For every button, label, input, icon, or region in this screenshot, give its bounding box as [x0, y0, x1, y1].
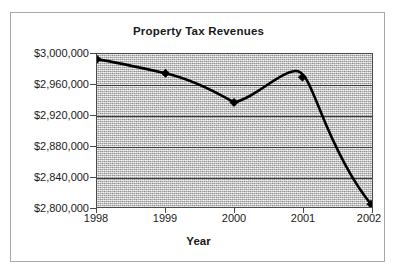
- chart-title: Property Tax Revenues: [11, 25, 386, 37]
- y-tick-label: $2,840,000: [5, 171, 89, 183]
- y-tick-label: $2,800,000: [5, 202, 89, 214]
- chart-figure: Property Tax Revenues $3,000,000 $2,960,…: [10, 12, 385, 262]
- y-tick-label: $2,960,000: [5, 78, 89, 90]
- data-series-line: [97, 54, 372, 208]
- series-path: [97, 59, 371, 204]
- x-tick-label: 2002: [357, 212, 381, 224]
- y-tick-label: $3,000,000: [5, 47, 89, 59]
- plot-area: [96, 53, 373, 208]
- series-markers: [97, 55, 372, 207]
- data-point-1999: [162, 69, 170, 77]
- data-point-1998: [97, 55, 101, 63]
- x-axis-title: Year: [11, 235, 386, 247]
- x-tick-label: 2001: [291, 212, 315, 224]
- x-tick-label: 2000: [222, 212, 246, 224]
- y-tick-label: $2,880,000: [5, 140, 89, 152]
- y-tick-label: $2,920,000: [5, 109, 89, 121]
- x-tick-label: 1999: [153, 212, 177, 224]
- x-tick-label: 1998: [84, 212, 108, 224]
